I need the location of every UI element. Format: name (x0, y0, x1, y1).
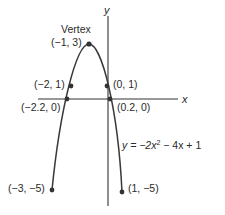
point-m22-0-label: (−2.2, 0) (21, 101, 60, 113)
point-m3-m5 (50, 188, 55, 193)
vertex-label: Vertex (61, 23, 92, 35)
point-m2-1-label: (−2, 1) (34, 78, 65, 90)
parabola-curve (52, 44, 122, 192)
equation-prefix: y = −2x (121, 139, 157, 151)
point-m3-m5-label: (−3, −5) (8, 182, 45, 194)
vertex-coord-label: (−1, 3) (51, 36, 82, 48)
equation-suffix: − 4x + 1 (160, 139, 201, 151)
point-0-1 (105, 84, 110, 89)
point-1-m5-label: (1, −5) (128, 182, 159, 194)
equation-label: y = −2x2 − 4x + 1 (121, 139, 201, 151)
y-axis-label: y (103, 4, 111, 16)
point-m2-1 (69, 84, 74, 89)
point-m22-0 (65, 97, 70, 102)
point-1-m5 (120, 190, 125, 195)
x-axis-label: x (181, 93, 188, 105)
point-02-0-label: (0.2, 0) (117, 101, 150, 113)
vertex-point (86, 41, 91, 46)
parabola-chart: x y Vertex (−1, 3) (−2, 1) (0, 1) (−2.2,… (0, 0, 225, 215)
point-0-1-label: (0, 1) (113, 78, 138, 90)
point-02-0 (108, 97, 113, 102)
